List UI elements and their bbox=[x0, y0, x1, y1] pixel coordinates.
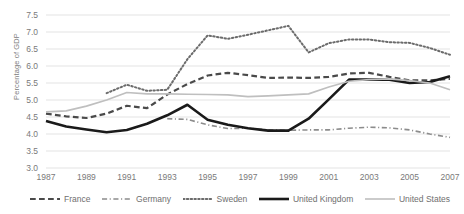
legend-swatch-united-states-icon bbox=[365, 195, 395, 203]
series-line-united-states bbox=[46, 79, 450, 112]
legend-item-united-states[interactable]: United States bbox=[365, 194, 450, 204]
legend-item-united-kingdom[interactable]: United Kingdom bbox=[259, 194, 353, 204]
legend-swatch-sweden-icon bbox=[183, 195, 213, 203]
legend-swatch-france-icon bbox=[30, 195, 60, 203]
legend-item-sweden[interactable]: Sweden bbox=[183, 194, 248, 204]
legend-label-germany: Germany bbox=[136, 194, 171, 204]
legend-item-france[interactable]: France bbox=[30, 194, 90, 204]
legend-label-united-kingdom: United Kingdom bbox=[293, 194, 353, 204]
legend-item-germany[interactable]: Germany bbox=[102, 194, 171, 204]
series-line-united-kingdom bbox=[46, 76, 450, 132]
legend-swatch-united-kingdom-icon bbox=[259, 195, 289, 203]
legend-label-sweden: Sweden bbox=[217, 194, 248, 204]
chart-legend: FranceGermanySwedenUnited KingdomUnited … bbox=[30, 191, 450, 207]
legend-label-united-states: United States bbox=[399, 194, 450, 204]
legend-label-france: France bbox=[64, 194, 90, 204]
gridlines bbox=[46, 15, 450, 168]
legend-swatch-germany-icon bbox=[102, 195, 132, 203]
